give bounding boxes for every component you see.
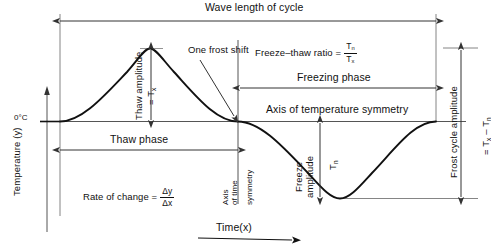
thaw-amplitude-value-text: = T bbox=[145, 91, 156, 105]
rate-of-change-text: Rate of change = bbox=[83, 192, 157, 203]
freezing-phase-label: Freezing phase bbox=[297, 72, 371, 84]
rate-of-change-numerator: Δy bbox=[160, 187, 174, 196]
frost-cycle-amplitude-minus: – T bbox=[480, 121, 491, 138]
x-axis-label: Time(x) bbox=[216, 222, 252, 234]
wave-length-of-cycle-label: Wave length of cycle bbox=[205, 2, 304, 14]
frost-cycle-diagram: Wave length of cycle 0°C Temperature (y)… bbox=[0, 0, 491, 246]
frost-cycle-amplitude-sub-2: n bbox=[485, 117, 491, 121]
freeze-thaw-ratio-denominator-sub: x bbox=[352, 58, 355, 64]
one-frost-shift-leader bbox=[200, 60, 234, 116]
time-axis-arrow bbox=[198, 238, 292, 240]
y-axis bbox=[44, 86, 50, 232]
diagram-vector-layer bbox=[0, 0, 491, 246]
frost-cycle-amplitude-sub-1: x bbox=[485, 138, 491, 141]
thaw-amplitude-text: Thaw amplitude bbox=[134, 52, 145, 120]
rate-of-change-fraction: Δy Δx bbox=[160, 187, 174, 208]
zero-degree-label: 0°C bbox=[14, 114, 28, 123]
one-frost-shift-label: One frost shift bbox=[188, 45, 249, 56]
thaw-phase-label: Thaw phase bbox=[110, 134, 168, 146]
freeze-thaw-ratio-text: Freeze–thaw ratio = bbox=[255, 48, 341, 59]
freeze-amplitude-line2: amplitude bbox=[305, 156, 316, 198]
freeze-thaw-ratio-fraction: Tn Tx bbox=[344, 42, 357, 64]
thaw-amplitude-subscript: x bbox=[150, 88, 157, 91]
freeze-thaw-ratio-formula: Freeze–thaw ratio = Tn Tx bbox=[255, 42, 357, 64]
axis-of-time-symmetry-line3: symmetry bbox=[246, 170, 255, 205]
rate-of-change-formula: Rate of change = Δy Δx bbox=[83, 187, 174, 208]
freeze-amplitude-value-text: T bbox=[327, 164, 338, 170]
axis-of-temperature-symmetry-label: Axis of temperature symmetry bbox=[266, 104, 408, 116]
freeze-thaw-ratio-numerator-sub: n bbox=[351, 45, 354, 51]
rate-of-change-denominator: Δx bbox=[160, 199, 174, 208]
frost-cycle-amplitude-text: Frost cycle amplitude bbox=[449, 86, 460, 178]
y-axis-label-text: Temperature (y) bbox=[12, 127, 23, 196]
axis-of-time-symmetry-line2: of time bbox=[231, 180, 240, 205]
freeze-amplitude-value-sub: n bbox=[332, 160, 339, 164]
frost-cycle-amplitude-value-text: = T bbox=[480, 141, 491, 155]
